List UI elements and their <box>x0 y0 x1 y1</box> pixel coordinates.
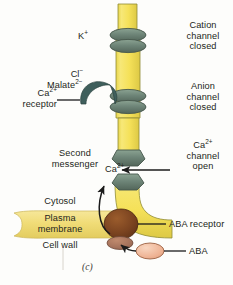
label-calcium-receptor: Ca2+ receptor <box>0 88 57 109</box>
label-calcium-text-1: Ca <box>38 88 50 98</box>
label-anion-line1: Anion <box>175 81 231 92</box>
aba-receptor-graphic <box>104 209 138 239</box>
label-calcium-charge-2: 2+ <box>117 162 125 169</box>
aba-receptor-wall-domain <box>107 237 133 250</box>
label-calcium-channel-open-line2: channel <box>175 151 231 162</box>
label-calcium-charge-1: 2+ <box>50 86 58 93</box>
label-cell-wall: Cell wall <box>24 240 96 251</box>
label-anion-line3: closed <box>175 102 231 113</box>
panel-label: (c) <box>82 262 93 272</box>
label-calcium-receptor-line1: Ca2+ <box>0 88 57 99</box>
figure-panel-c: K+ Cation channel closed Cl− Malate2− An… <box>0 0 233 285</box>
label-cation-line1: Cation <box>175 20 231 31</box>
label-second-messenger-line2: messenger <box>44 159 106 170</box>
label-calcium-receptor-line2: receptor <box>0 99 57 110</box>
label-aba: ABA <box>189 246 208 257</box>
cation-channel-lower-subunit <box>110 39 146 52</box>
label-second-messenger: Second messenger <box>44 148 106 169</box>
label-plasma-membrane-line1: Plasma <box>22 213 98 224</box>
label-plasma-membrane-line2: membrane <box>22 224 98 235</box>
label-potassium-charge: + <box>84 29 88 36</box>
label-plasma-membrane: Plasma membrane <box>22 213 98 234</box>
calcium-channel-lower-gate <box>112 174 144 190</box>
label-calcium-channel-open: Ca2+ channel open <box>175 140 231 172</box>
label-anion-channel-closed: Anion channel closed <box>175 81 231 113</box>
label-cation-line2: channel <box>175 31 231 42</box>
label-calcium-channel-open-line3: open <box>175 161 231 172</box>
tube-segment-top <box>118 4 137 30</box>
aba-molecule-graphic <box>136 243 164 259</box>
label-chloride-charge: − <box>80 67 84 74</box>
cation-channel-closed-graphic <box>110 28 146 52</box>
label-calcium-charge-3: 2+ <box>205 138 213 145</box>
label-cation-channel-closed: Cation channel closed <box>175 20 231 52</box>
calcium-receptor-graphic <box>81 82 110 104</box>
label-second-messenger-line1: Second <box>44 148 106 159</box>
tube-segment-lower <box>118 118 139 152</box>
label-calcium-influx: Ca2+ <box>105 164 124 175</box>
label-anion-line2: channel <box>175 92 231 103</box>
label-calcium-text-2: Ca <box>105 164 117 174</box>
label-aba-receptor: ABA receptor <box>169 219 224 230</box>
label-malate-charge: 2− <box>75 78 83 85</box>
label-cytosol: Cytosol <box>26 196 94 207</box>
label-potassium: K+ <box>78 31 88 42</box>
label-calcium-text-3: Ca <box>193 140 205 150</box>
label-calcium-channel-open-line1: Ca2+ <box>175 140 231 151</box>
label-cation-line3: closed <box>175 41 231 52</box>
